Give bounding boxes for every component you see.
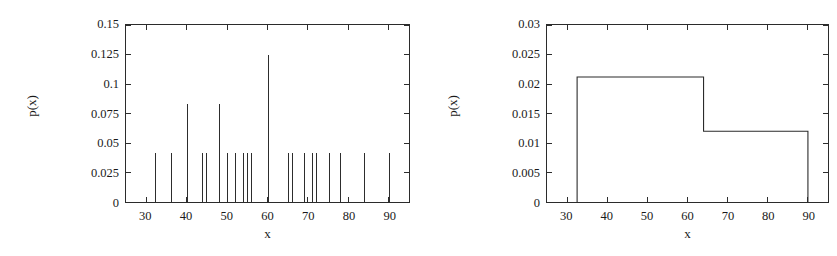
y-tick-label: 0.05 bbox=[0, 136, 119, 151]
x-tick-label: 60 bbox=[261, 209, 274, 224]
x-tick-label: 50 bbox=[221, 209, 234, 224]
y-tick-label: 0.025 bbox=[418, 46, 540, 61]
left-plot-canvas bbox=[126, 25, 409, 202]
impulse-plot-panel: p(x) x 00.0250.050.0750.10.1250.15 30405… bbox=[0, 0, 420, 256]
x-tick-label: 70 bbox=[302, 209, 315, 224]
y-tick-label: 0.01 bbox=[418, 136, 540, 151]
x-tick-label: 40 bbox=[180, 209, 193, 224]
histogram-outline bbox=[577, 77, 808, 202]
y-tick-label: 0.005 bbox=[418, 166, 540, 181]
x-tick-label: 40 bbox=[600, 209, 613, 224]
right-plot-frame bbox=[546, 24, 829, 203]
x-tick-label: 90 bbox=[803, 209, 816, 224]
y-tick-label: 0.1 bbox=[0, 76, 119, 91]
x-tick-label: 80 bbox=[762, 209, 775, 224]
x-tick-label: 70 bbox=[722, 209, 735, 224]
y-tick-label: 0 bbox=[0, 196, 119, 211]
right-x-axis-label: x bbox=[546, 226, 829, 242]
y-tick-label: 0.075 bbox=[0, 106, 119, 121]
left-x-axis-label: x bbox=[125, 226, 410, 242]
y-tick-label: 0 bbox=[418, 196, 540, 211]
y-tick-label: 0.15 bbox=[0, 17, 119, 32]
x-tick-label: 60 bbox=[681, 209, 694, 224]
x-tick-label: 80 bbox=[343, 209, 356, 224]
left-plot-frame bbox=[125, 24, 410, 203]
histogram-panel: p(x) x 00.0050.010.0150.020.0250.03 3040… bbox=[418, 0, 837, 256]
y-tick-label: 0.015 bbox=[418, 106, 540, 121]
x-tick-label: 30 bbox=[139, 209, 152, 224]
y-tick-label: 0.025 bbox=[0, 166, 119, 181]
y-tick-label: 0.02 bbox=[418, 76, 540, 91]
y-tick-label: 0.125 bbox=[0, 46, 119, 61]
x-tick-label: 50 bbox=[641, 209, 654, 224]
x-tick-label: 30 bbox=[560, 209, 573, 224]
y-tick-label: 0.03 bbox=[418, 17, 540, 32]
x-tick-label: 90 bbox=[383, 209, 396, 224]
right-plot-canvas bbox=[547, 25, 828, 202]
